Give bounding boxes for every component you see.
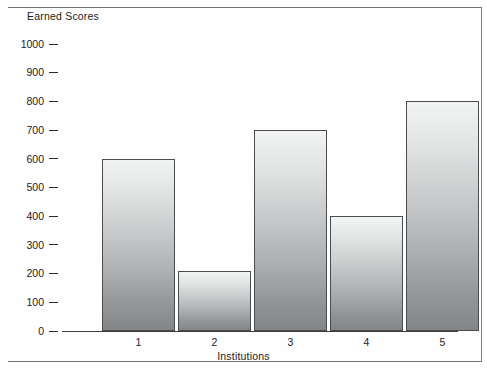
y-axis-tick-mark <box>49 187 58 188</box>
y-axis-tick-label: 200 <box>26 268 44 279</box>
page-frame-top-rule <box>8 7 482 8</box>
bar <box>254 130 327 331</box>
y-axis-tick-label: 600 <box>26 153 44 164</box>
y-axis-tick-label: 900 <box>26 67 44 78</box>
page-frame-right-rule <box>481 7 482 362</box>
y-axis-tick-mark <box>49 44 58 45</box>
bar-series-group <box>62 44 458 331</box>
x-axis-tick-label: 3 <box>254 336 327 348</box>
y-axis-tick-mark <box>49 72 58 73</box>
y-axis-tick-label: 0 <box>38 325 44 336</box>
y-axis-tick-mark <box>49 158 58 159</box>
y-axis-tick-label: 300 <box>26 239 44 250</box>
x-axis-tick-label: 1 <box>102 336 175 348</box>
y-axis-tick-mark <box>49 273 58 274</box>
bar <box>178 271 251 331</box>
bar <box>406 101 479 331</box>
y-axis-tick-label: 400 <box>26 210 44 221</box>
y-axis-tick-label: 700 <box>26 124 44 135</box>
x-axis-tick-label: 2 <box>178 336 251 348</box>
x-axis-tick-label: 4 <box>330 336 403 348</box>
x-axis-tick-label: 5 <box>406 336 479 348</box>
bar <box>102 159 175 331</box>
x-axis-title: Institutions <box>0 350 487 362</box>
y-axis-tick-mark <box>49 101 58 102</box>
y-axis-tick-mark <box>49 216 58 217</box>
x-axis-line <box>62 331 458 332</box>
y-axis-tick-label: 800 <box>26 96 44 107</box>
y-axis-tick-mark <box>49 130 58 131</box>
y-axis-tick-mark <box>49 302 58 303</box>
y-axis-tick-label: 500 <box>26 182 44 193</box>
y-axis-tick-label: 1000 <box>21 38 44 49</box>
bar <box>330 216 403 331</box>
y-axis-tick-label: 100 <box>26 297 44 308</box>
y-axis-tick-mark <box>49 244 58 245</box>
y-axis-tick-mark <box>49 331 58 332</box>
y-axis-title: Earned Scores <box>27 10 99 22</box>
bar-chart-figure: Earned Scores 01002003004005006007008009… <box>0 0 487 370</box>
